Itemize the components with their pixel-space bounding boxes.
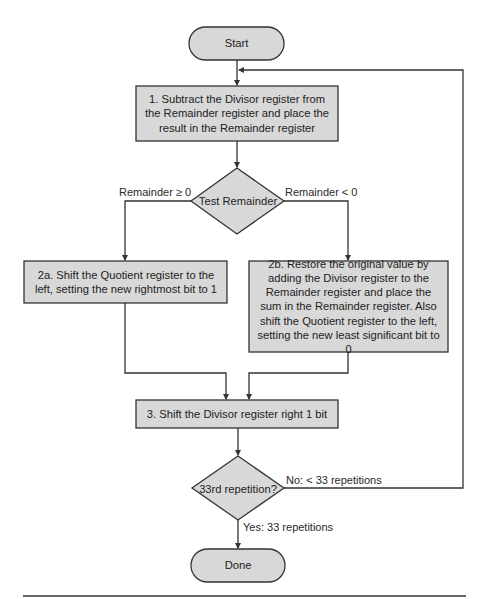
edge-step2a-to-step3: [125, 303, 226, 399]
test-remainder-label: Test Remainder: [195, 190, 281, 212]
edge-label-remainder-lt-0: Remainder < 0: [285, 186, 357, 199]
edge-test-to-step2b: [284, 201, 348, 260]
step1-label: 1. Subtract the Divisor register from th…: [142, 86, 332, 141]
step2a-label: 2a. Shift the Quotient register to the l…: [28, 261, 224, 303]
edge-label-remainder-ge-0: Remainder ≥ 0: [119, 186, 191, 199]
edge-step2b-to-step3: [249, 352, 348, 399]
edge-label-yes-done: Yes: 33 repetitions: [243, 521, 333, 534]
edge-test-to-step2a: [125, 201, 191, 260]
step2b-label: 2b. Restore the original value by adding…: [254, 261, 443, 352]
edge-label-no-loop: No: < 33 repetitions: [286, 474, 382, 487]
step3-label: 3. Shift the Divisor register right 1 bi…: [136, 400, 338, 428]
repetition-check-label: 33rd repetition?: [192, 478, 284, 500]
start-label: Start: [189, 27, 284, 60]
done-label: Done: [191, 549, 285, 582]
